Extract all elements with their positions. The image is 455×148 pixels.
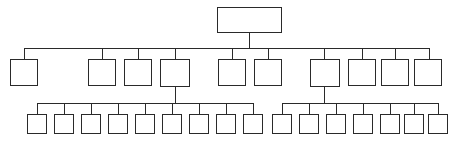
unit-node-2[interactable] xyxy=(54,114,74,134)
connector-c-stem-n4 xyxy=(175,87,176,103)
org-chart-diagram xyxy=(0,0,455,148)
division-node-4[interactable] xyxy=(160,59,190,87)
connector-c-drop-m2 xyxy=(64,103,65,114)
connector-c-drop-m3 xyxy=(91,103,92,114)
connector-c-drop-n9 xyxy=(395,48,396,59)
connector-c-drop-m15 xyxy=(414,103,415,114)
connector-c-drop-m5 xyxy=(145,103,146,114)
division-node-7[interactable] xyxy=(310,59,340,87)
connector-c-drop-m9 xyxy=(253,103,254,114)
connector-c-drop-m10 xyxy=(282,103,283,114)
unit-node-15[interactable] xyxy=(404,114,424,134)
connector-c-drop-m7 xyxy=(199,103,200,114)
connector-c-drop-n6 xyxy=(268,48,269,59)
connector-c-drop-m4 xyxy=(118,103,119,114)
unit-node-12[interactable] xyxy=(326,114,346,134)
connector-c-drop-n4 xyxy=(175,48,176,59)
connector-c-level2-bus xyxy=(24,48,430,49)
unit-node-10[interactable] xyxy=(272,114,292,134)
connector-c-root-stem xyxy=(249,33,250,48)
unit-node-5[interactable] xyxy=(135,114,155,134)
unit-node-16[interactable] xyxy=(428,114,448,134)
unit-node-7[interactable] xyxy=(189,114,209,134)
division-node-9[interactable] xyxy=(381,59,409,86)
root-node-1[interactable] xyxy=(217,7,282,33)
division-node-2[interactable] xyxy=(88,59,116,86)
division-node-10[interactable] xyxy=(414,59,442,86)
unit-node-13[interactable] xyxy=(353,114,373,134)
connector-c-stem-n7 xyxy=(324,87,325,103)
unit-node-11[interactable] xyxy=(299,114,319,134)
division-node-8[interactable] xyxy=(348,59,376,86)
division-node-5[interactable] xyxy=(218,59,246,86)
unit-node-14[interactable] xyxy=(380,114,400,134)
unit-node-3[interactable] xyxy=(81,114,101,134)
connector-c-drop-m11 xyxy=(309,103,310,114)
connector-c-drop-n8 xyxy=(362,48,363,59)
unit-node-8[interactable] xyxy=(216,114,236,134)
connector-c-drop-m6 xyxy=(172,103,173,114)
connector-c-drop-n5 xyxy=(232,48,233,59)
division-node-3[interactable] xyxy=(124,59,152,86)
connector-c-drop-n3 xyxy=(138,48,139,59)
unit-node-1[interactable] xyxy=(27,114,47,134)
connector-c-drop-n7 xyxy=(324,48,325,59)
connector-c-drop-m14 xyxy=(390,103,391,114)
connector-c-drop-n2 xyxy=(102,48,103,59)
connector-c-drop-n10 xyxy=(429,48,430,59)
division-node-1[interactable] xyxy=(10,59,38,86)
connector-c-drop-m13 xyxy=(363,103,364,114)
connector-c-drop-m8 xyxy=(226,103,227,114)
unit-node-9[interactable] xyxy=(243,114,263,134)
connector-c-drop-m12 xyxy=(336,103,337,114)
connector-c-drop-m16 xyxy=(438,103,439,114)
unit-node-6[interactable] xyxy=(162,114,182,134)
connector-c-drop-n1 xyxy=(24,48,25,59)
connector-c-drop-m1 xyxy=(37,103,38,114)
unit-node-4[interactable] xyxy=(108,114,128,134)
division-node-6[interactable] xyxy=(254,59,282,86)
